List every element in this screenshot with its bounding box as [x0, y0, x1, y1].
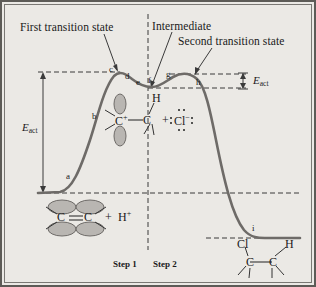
energy-diagram-figure: First transition state Intermediate Seco…: [0, 0, 316, 287]
figure-outer-border: [0, 0, 316, 287]
